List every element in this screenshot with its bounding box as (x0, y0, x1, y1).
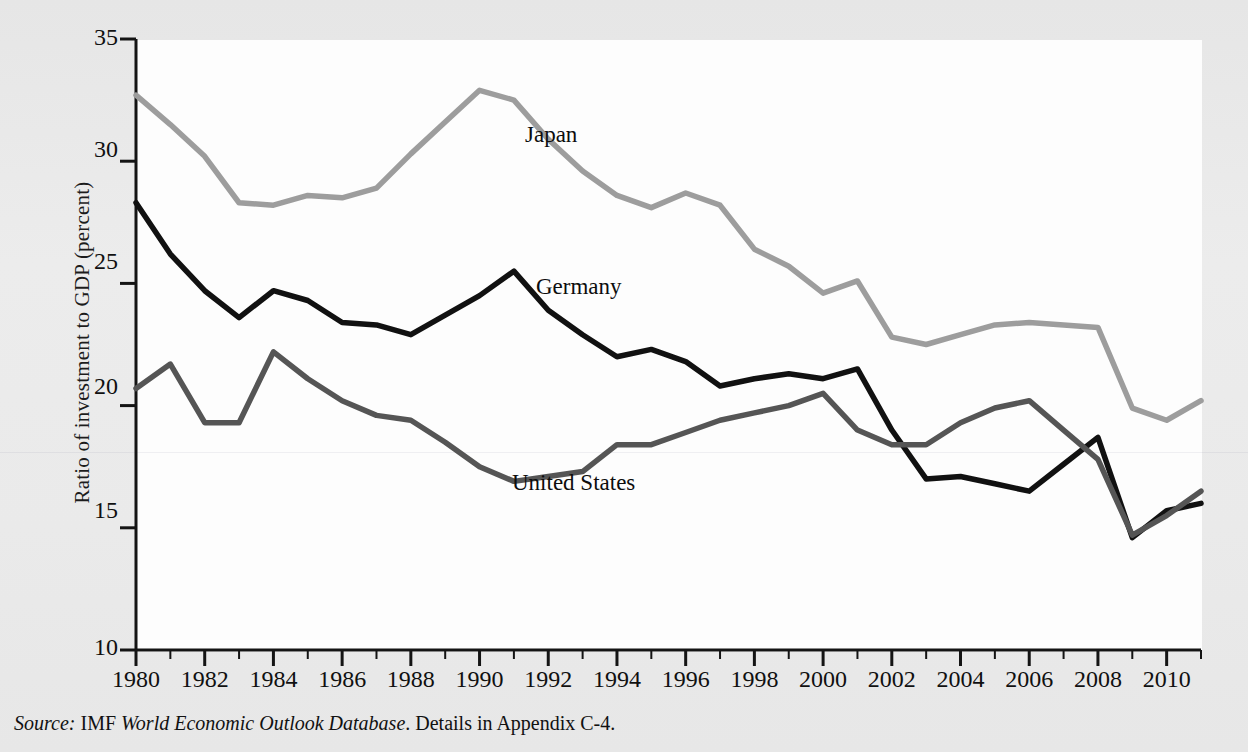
series-label-japan: Japan (525, 122, 577, 148)
axis-group (136, 39, 1201, 650)
y-axis-title: Ratio of investment to GDP (percent) (70, 133, 95, 553)
figure-container: Ratio of investment to GDP (percent) 35 … (0, 0, 1248, 752)
source-tail: . Details in Appendix C-4. (405, 712, 615, 734)
source-prefix: Source: (14, 712, 75, 734)
series-label-germany: Germany (536, 274, 622, 300)
x-tick-marks (136, 650, 1201, 666)
y-tick-label-25: 25 (58, 248, 118, 275)
source-database: World Economic Outlook Database (121, 712, 405, 734)
y-tick-label-30: 30 (58, 136, 118, 163)
source-note: Source: IMF World Economic Outlook Datab… (14, 712, 615, 735)
source-agency: IMF (75, 712, 121, 734)
series-label-united-states: United States (512, 470, 635, 496)
series-lines (136, 90, 1201, 537)
x-tick-label-2010: 2010 (1122, 666, 1212, 693)
line-chart (0, 0, 1248, 700)
y-tick-label-35: 35 (58, 24, 118, 51)
y-tick-label-10: 10 (58, 634, 118, 661)
series-line-united-states (136, 352, 1201, 535)
y-tick-label-15: 15 (58, 497, 118, 524)
y-tick-label-20: 20 (58, 373, 118, 400)
y-tick-marks (120, 39, 136, 650)
